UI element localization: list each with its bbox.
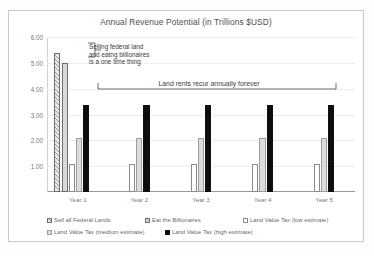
x-axis-tick-label: Year 4 xyxy=(232,196,294,203)
legend-swatch-icon xyxy=(243,218,248,223)
legend-swatch-icon xyxy=(165,230,170,235)
y-axis-tick-label: 3.00 xyxy=(31,111,43,118)
bar-group xyxy=(232,37,294,192)
x-axis-tick-label: Year 2 xyxy=(109,196,171,203)
y-axis-tick-label: 5.00 xyxy=(31,59,43,66)
legend-swatch-icon xyxy=(145,218,150,223)
x-axis-tick-label: Year 5 xyxy=(293,196,355,203)
annotation-recurring: Land rents recur annually forever xyxy=(119,80,299,87)
y-axis-tick-label: 6.00 xyxy=(31,34,43,41)
legend-label: Sell all Federal Lands xyxy=(54,217,111,223)
legend-item[interactable]: Eat the Billionaires xyxy=(145,217,201,223)
legend-item[interactable]: Sell all Federal Lands xyxy=(47,217,111,223)
bar xyxy=(143,105,149,192)
chart-container: Annual Revenue Potential (in Trillions $… xyxy=(8,10,364,242)
legend-item[interactable]: Land Value Tax (high estimate) xyxy=(165,229,253,235)
legend-item[interactable]: Land Value Tax (medium estimate) xyxy=(47,229,144,235)
y-axis-tick-label: 1.00 xyxy=(31,163,43,170)
legend-label: Land Value Tax (medium estimate) xyxy=(54,229,144,235)
y-axis-tick-label: 2.00 xyxy=(31,137,43,144)
chart-legend: Sell all Federal LandsEat the Billionair… xyxy=(47,217,353,241)
bar xyxy=(198,138,204,192)
bar xyxy=(205,105,211,192)
screenshot-root: Annual Revenue Potential (in Trillions $… xyxy=(0,0,374,256)
bar xyxy=(191,164,197,192)
bar xyxy=(314,164,320,192)
legend-row: Land Value Tax (medium estimate)Land Val… xyxy=(47,229,353,241)
x-axis-tick-label: Year 1 xyxy=(47,196,109,203)
bar xyxy=(267,105,273,192)
legend-item[interactable]: Land Value Tax (low estimate) xyxy=(243,217,328,223)
bar-group xyxy=(170,37,232,192)
y-axis-tick-label: 4.00 xyxy=(31,85,43,92)
bar xyxy=(76,138,82,192)
bar xyxy=(252,164,258,192)
legend-label: Land Value Tax (low estimate) xyxy=(250,217,328,223)
bar xyxy=(69,164,75,192)
bar-group xyxy=(293,37,355,192)
bar xyxy=(129,164,135,192)
bar xyxy=(54,53,60,193)
bar xyxy=(328,105,334,192)
annotation-one-time: Selling federal land and eatng billionai… xyxy=(89,43,151,66)
legend-swatch-icon xyxy=(47,218,52,223)
legend-label: Land Value Tax (high estimate) xyxy=(172,229,253,235)
legend-row: Sell all Federal LandsEat the Billionair… xyxy=(47,217,353,229)
x-axis-tick-label: Year 3 xyxy=(170,196,232,203)
legend-swatch-icon xyxy=(47,230,52,235)
legend-label: Eat the Billionaires xyxy=(152,217,201,223)
bar xyxy=(321,138,327,192)
bar xyxy=(62,63,68,192)
chart-title: Annual Revenue Potential (in Trillions $… xyxy=(9,17,363,27)
bar xyxy=(83,105,89,192)
bar xyxy=(136,138,142,192)
bar xyxy=(259,138,265,192)
